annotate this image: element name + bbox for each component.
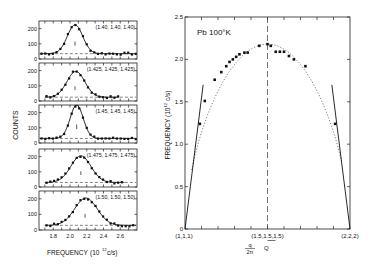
- data-point: [72, 211, 74, 213]
- y-tick-label: 100: [28, 83, 37, 89]
- data-point: [72, 162, 74, 164]
- data-point: [48, 53, 50, 55]
- data-point: [116, 53, 118, 55]
- data-point: [117, 95, 119, 97]
- y-tick-label: 200: [28, 26, 37, 32]
- data-point: [45, 224, 47, 226]
- data-point: [86, 127, 88, 129]
- panel-label: (1.425, 1.425, 1.425): [87, 66, 135, 72]
- data-point: [71, 113, 73, 115]
- y-tick-label: 200: [28, 110, 37, 116]
- data-point: [52, 53, 54, 55]
- y-tick-label: 100: [28, 211, 37, 217]
- data-point: [40, 137, 42, 139]
- y-tick-label: 2.0: [175, 56, 184, 62]
- data-point: [57, 93, 59, 95]
- y-tick-label: 0: [34, 98, 37, 104]
- data-point: [45, 182, 47, 184]
- data-point: [120, 137, 122, 139]
- data-point: [304, 65, 307, 68]
- y-tick-label: 0: [34, 56, 37, 62]
- x-axis-units: c/s): [107, 249, 117, 257]
- data-point: [87, 198, 89, 200]
- data-point: [64, 172, 66, 174]
- data-point: [279, 50, 282, 53]
- data-point: [94, 205, 96, 207]
- fit-curve: [45, 198, 136, 225]
- y-tick-label: 100: [28, 41, 37, 47]
- data-point: [61, 221, 63, 223]
- data-point: [104, 53, 106, 55]
- data-point: [132, 224, 134, 226]
- data-point: [123, 52, 125, 54]
- data-point: [48, 137, 50, 139]
- data-point: [74, 24, 76, 26]
- data-point: [87, 86, 89, 88]
- data-point: [117, 224, 119, 226]
- data-point: [76, 204, 78, 206]
- y-tick-label: 100: [28, 169, 37, 175]
- data-point: [102, 178, 104, 180]
- dispersion-chart: 00.51.01.52.02.5Pb 100°KFREQUENCY (1012 …: [163, 14, 359, 255]
- data-point: [266, 43, 269, 46]
- data-point: [49, 181, 51, 183]
- data-point: [238, 53, 241, 56]
- data-point: [79, 199, 81, 201]
- counts-panel: 0100200(1.425, 1.425, 1.425): [28, 63, 137, 104]
- counts-panel: 0100200(1.40, 1.40, 1.40): [28, 21, 137, 62]
- data-point: [79, 156, 81, 158]
- data-point: [83, 157, 85, 159]
- data-point: [68, 215, 70, 217]
- data-point: [106, 181, 108, 183]
- panel-label: (1.40, 1.40, 1.40): [95, 24, 135, 30]
- x-axis-label: FREQUENCY: [47, 249, 88, 257]
- data-point: [258, 45, 261, 48]
- x-tick-label: 2.0: [66, 233, 74, 239]
- y-tick-label: 200: [28, 196, 37, 202]
- y-tick-label: 100: [28, 125, 37, 131]
- data-point: [89, 134, 91, 136]
- data-point: [91, 92, 93, 94]
- counts-panels: 0100200(1.40, 1.40, 1.40)0100200(1.425, …: [12, 21, 137, 257]
- data-point: [117, 182, 119, 184]
- data-point: [98, 176, 100, 178]
- x-tick-label: 2.2: [83, 233, 91, 239]
- counts-panel: 0100200(1.475, 1.475, 1.475): [28, 149, 137, 190]
- panel-label: (1.475, 1.475, 1.475): [87, 152, 135, 158]
- data-point: [106, 219, 108, 221]
- dispersion-curve-dotted: [192, 44, 342, 170]
- data-point: [98, 96, 100, 98]
- data-point: [87, 161, 89, 163]
- data-point: [49, 225, 51, 227]
- data-point: [72, 71, 74, 73]
- x-tick-label: 2.6: [116, 233, 124, 239]
- data-point: [64, 219, 66, 221]
- y-tick-label: 0: [34, 184, 37, 190]
- fit-curve: [45, 71, 119, 97]
- x-tick-label: 2.4: [100, 233, 108, 239]
- x-tick-label: (1,1,1): [175, 233, 192, 239]
- data-point: [74, 105, 76, 107]
- data-point: [108, 52, 110, 54]
- y-tick-label: 0: [34, 140, 37, 146]
- data-point: [86, 43, 88, 45]
- data-point: [78, 107, 80, 109]
- data-point: [97, 138, 99, 140]
- data-point: [225, 65, 228, 68]
- data-point: [127, 138, 129, 140]
- data-point: [113, 222, 115, 224]
- data-point: [63, 43, 65, 45]
- data-point: [40, 53, 42, 55]
- data-point: [61, 89, 63, 91]
- data-point: [59, 136, 61, 138]
- data-point: [110, 180, 112, 182]
- data-point: [110, 222, 112, 224]
- data-point: [68, 167, 70, 169]
- y-tick-label: 0.5: [175, 184, 184, 190]
- data-point: [44, 52, 46, 54]
- data-point: [127, 52, 129, 54]
- data-point: [220, 71, 223, 74]
- data-point: [83, 198, 85, 200]
- data-point: [53, 95, 55, 97]
- data-point: [204, 100, 207, 103]
